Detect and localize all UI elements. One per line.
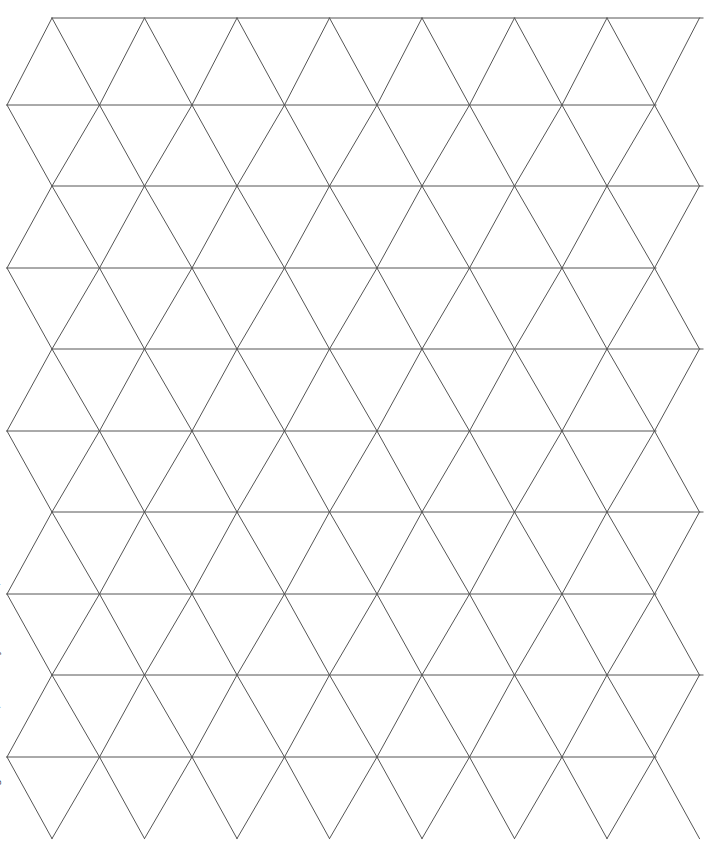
worksheet-page: om Teaching Number Sense, Grade 1 by Chr… bbox=[0, 0, 711, 843]
grid-diagonal-line bbox=[192, 431, 237, 512]
grid-diagonal-line bbox=[330, 431, 378, 512]
grid-diagonal-line bbox=[607, 186, 655, 268]
grid-diagonal-line bbox=[607, 512, 655, 594]
grid-diagonal-line bbox=[377, 675, 422, 757]
grid-diagonal-line bbox=[607, 18, 655, 105]
grid-diagonal-line bbox=[285, 268, 330, 349]
grid-diagonal-line bbox=[562, 512, 607, 594]
grid-diagonal-line bbox=[100, 431, 145, 512]
grid-diagonal-line bbox=[100, 105, 145, 186]
grid-diagonal-line bbox=[192, 675, 237, 757]
grid-diagonal-line bbox=[145, 757, 193, 839]
grid-diagonal-line bbox=[285, 18, 330, 105]
grid-diagonal-line bbox=[285, 105, 330, 186]
grid-diagonal-line bbox=[515, 512, 563, 594]
grid-diagonal-line bbox=[470, 105, 515, 186]
grid-diagonal-line bbox=[145, 594, 193, 675]
grid-diagonal-line bbox=[192, 757, 237, 839]
grid-diagonal-line bbox=[52, 349, 100, 431]
grid-diagonal-line bbox=[145, 268, 193, 349]
grid-diagonal-line bbox=[100, 268, 145, 349]
grid-diagonal-line bbox=[422, 349, 470, 431]
grid-diagonal-line bbox=[7, 594, 52, 675]
grid-diagonal-line bbox=[655, 186, 700, 268]
grid-diagonal-line bbox=[607, 675, 655, 757]
grid-diagonal-line bbox=[330, 105, 378, 186]
grid-diagonal-line bbox=[515, 431, 563, 512]
grid-diagonal-line bbox=[607, 431, 655, 512]
grid-diagonal-line bbox=[655, 431, 700, 512]
grid-diagonal-line bbox=[470, 349, 515, 431]
grid-diagonal-line bbox=[655, 675, 700, 757]
grid-diagonal-line bbox=[237, 186, 285, 268]
grid-diagonal-line bbox=[607, 349, 655, 431]
grid-diagonal-line bbox=[470, 594, 515, 675]
grid-diagonal-line bbox=[7, 757, 52, 839]
grid-diagonal-line bbox=[285, 757, 330, 839]
grid-diagonal-line bbox=[237, 512, 285, 594]
grid-diagonal-line bbox=[422, 18, 470, 105]
grid-diagonal-line bbox=[330, 594, 378, 675]
grid-diagonal-line bbox=[377, 431, 422, 512]
grid-diagonal-line bbox=[422, 105, 470, 186]
grid-diagonal-line bbox=[192, 186, 237, 268]
grid-diagonal-line bbox=[330, 512, 378, 594]
grid-diagonal-line bbox=[52, 757, 100, 839]
grid-diagonal-line bbox=[377, 105, 422, 186]
grid-diagonal-line bbox=[470, 268, 515, 349]
grid-diagonal-line bbox=[515, 268, 563, 349]
grid-diagonal-line bbox=[237, 431, 285, 512]
grid-diagonal-line bbox=[607, 268, 655, 349]
grid-diagonal-line bbox=[7, 675, 52, 757]
grid-diagonal-line bbox=[145, 186, 193, 268]
grid-diagonal-line bbox=[515, 18, 563, 105]
grid-diagonal-line bbox=[192, 18, 237, 105]
grid-diagonal-line bbox=[192, 105, 237, 186]
grid-diagonal-line bbox=[470, 757, 515, 839]
grid-diagonal-line bbox=[562, 594, 607, 675]
grid-diagonal-line bbox=[237, 757, 285, 839]
grid-diagonal-line bbox=[422, 757, 470, 839]
grid-diagonal-line bbox=[145, 431, 193, 512]
grid-diagonal-line bbox=[100, 349, 145, 431]
grid-diagonal-line bbox=[655, 18, 700, 105]
grid-diagonal-line bbox=[7, 186, 52, 268]
grid-diagonal-line bbox=[377, 512, 422, 594]
grid-diagonal-line bbox=[515, 105, 563, 186]
grid-diagonal-line bbox=[330, 268, 378, 349]
grid-diagonal-line bbox=[562, 105, 607, 186]
grid-diagonal-line bbox=[607, 594, 655, 675]
grid-diagonal-line bbox=[285, 431, 330, 512]
triangle-grid bbox=[0, 0, 711, 843]
grid-diagonal-line bbox=[330, 349, 378, 431]
grid-diagonal-line bbox=[145, 675, 193, 757]
grid-diagonal-line bbox=[145, 512, 193, 594]
grid-diagonal-line bbox=[562, 349, 607, 431]
grid-diagonal-line bbox=[145, 18, 193, 105]
grid-diagonal-line bbox=[330, 675, 378, 757]
grid-diagonal-line bbox=[330, 186, 378, 268]
grid-diagonal-line bbox=[515, 757, 563, 839]
grid-diagonal-line bbox=[655, 268, 700, 349]
grid-diagonal-line bbox=[285, 349, 330, 431]
grid-diagonal-line bbox=[100, 757, 145, 839]
grid-diagonal-line bbox=[422, 675, 470, 757]
grid-diagonal-line bbox=[655, 757, 700, 839]
grid-diagonal-line bbox=[7, 512, 52, 594]
grid-diagonal-line bbox=[100, 186, 145, 268]
grid-diagonal-line bbox=[7, 18, 52, 105]
grid-diagonal-line bbox=[7, 105, 52, 186]
grid-diagonal-line bbox=[470, 512, 515, 594]
grid-diagonal-line bbox=[52, 431, 100, 512]
grid-diagonal-line bbox=[330, 757, 378, 839]
grid-diagonal-line bbox=[7, 431, 52, 512]
grid-diagonal-line bbox=[377, 186, 422, 268]
grid-diagonal-line bbox=[237, 594, 285, 675]
grid-diagonal-line bbox=[377, 594, 422, 675]
grid-diagonal-line bbox=[655, 512, 700, 594]
grid-diagonal-line bbox=[192, 594, 237, 675]
grid-diagonal-line bbox=[145, 105, 193, 186]
grid-diagonal-line bbox=[7, 268, 52, 349]
grid-diagonal-line bbox=[655, 105, 700, 186]
grid-diagonal-line bbox=[52, 105, 100, 186]
